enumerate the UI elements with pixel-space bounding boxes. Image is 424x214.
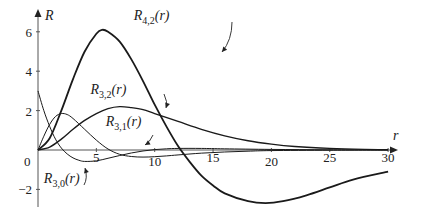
y-axis-label: R bbox=[44, 8, 54, 23]
series-label-3-1: R3,1(r) bbox=[105, 114, 142, 132]
arrowhead-icon bbox=[222, 47, 227, 52]
y-axis-arrow-icon bbox=[35, 9, 42, 17]
labels: R r 0 bbox=[24, 8, 399, 169]
x-tick-label: 25 bbox=[323, 150, 336, 165]
curves bbox=[38, 30, 388, 203]
y-tick-label: 4 bbox=[26, 64, 33, 79]
x-axis-label: r bbox=[393, 128, 399, 143]
series-label-3-2: R3,2(r) bbox=[90, 82, 127, 100]
arrowhead-icon bbox=[84, 168, 89, 174]
radial-wavefunction-chart: 51015202530642−2 R r 0 R4,2(r)R3,2(r)R3,… bbox=[0, 0, 424, 214]
arrowhead-icon bbox=[165, 102, 170, 108]
x-tick-label: 30 bbox=[382, 150, 395, 165]
y-tick-label: −2 bbox=[18, 182, 32, 197]
y-tick-label: 2 bbox=[26, 104, 33, 119]
series-label-3-0: R3,0(r) bbox=[43, 171, 80, 189]
curve-3-2 bbox=[38, 107, 388, 150]
series-label-4-2: R4,2(r) bbox=[133, 8, 170, 26]
x-tick-label: 20 bbox=[265, 154, 278, 169]
y-tick-label: 6 bbox=[26, 25, 33, 40]
origin-label: 0 bbox=[24, 154, 31, 169]
axes bbox=[35, 9, 399, 207]
x-tick-label: 5 bbox=[93, 150, 100, 165]
annotations: R4,2(r)R3,2(r)R3,1(r)R3,0(r) bbox=[43, 8, 232, 190]
